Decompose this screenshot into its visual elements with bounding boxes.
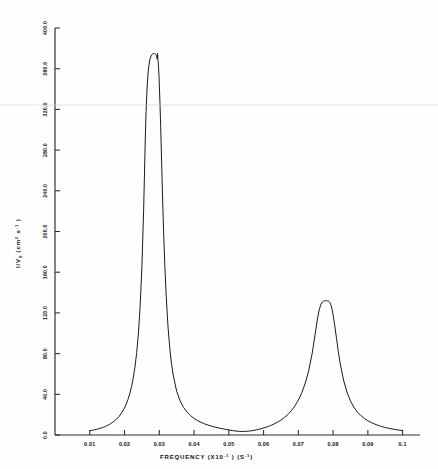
x-tick-label: 0.01: [84, 441, 95, 447]
x-tick-label: 0.04: [188, 441, 199, 447]
y-tick-label: 360.0: [42, 62, 48, 76]
y-tick-label: 400.0: [42, 21, 48, 35]
y-tick-label: 80.0: [42, 348, 48, 359]
ticks-group: [55, 28, 403, 435]
spectrum-curve: [90, 53, 403, 431]
svg-text:I/V0 (cm2 s-1 ): I/V0 (cm2 s-1 ): [14, 218, 23, 268]
x-tick-label: 0.06: [258, 441, 269, 447]
x-tick-label: 0.08: [327, 441, 338, 447]
y-tick-label: 40.0: [42, 389, 48, 400]
x-tick-label: 0.1: [399, 441, 407, 447]
svg-text:FREQUENCY (X10-1 ) (S-1): FREQUENCY (X10-1 ) (S-1): [160, 453, 253, 460]
y-tick-label: 160.0: [42, 265, 48, 279]
x-axis-tick-labels: 0.010.020.030.040.050.060.070.080.090.1: [84, 441, 407, 447]
y-tick-label: 240.0: [42, 184, 48, 198]
y-axis-tick-labels: 0.040.080.0120.0160.0200.0240.0280.0320.…: [42, 21, 48, 439]
y-tick-label: 320.0: [42, 102, 48, 116]
y-tick-label: 120.0: [42, 306, 48, 320]
chart-canvas: 0.040.080.0120.0160.0200.0240.0280.0320.…: [0, 0, 438, 469]
spectrum-plot: 0.040.080.0120.0160.0200.0240.0280.0320.…: [0, 0, 438, 469]
x-tick-label: 0.05: [223, 441, 234, 447]
x-tick-label: 0.09: [362, 441, 373, 447]
axes-group: [55, 28, 420, 435]
y-tick-label: 200.0: [42, 225, 48, 239]
y-axis-title: I/V0 (cm2 s-1 ): [14, 218, 23, 268]
y-tick-label: 280.0: [42, 143, 48, 157]
y-tick-label: 0.0: [42, 431, 48, 439]
x-axis-title: FREQUENCY (X10-1 ) (S-1): [160, 453, 253, 460]
x-tick-label: 0.02: [119, 441, 130, 447]
data-series-curve: [90, 53, 403, 431]
x-tick-label: 0.03: [154, 441, 165, 447]
x-tick-label: 0.07: [293, 441, 304, 447]
